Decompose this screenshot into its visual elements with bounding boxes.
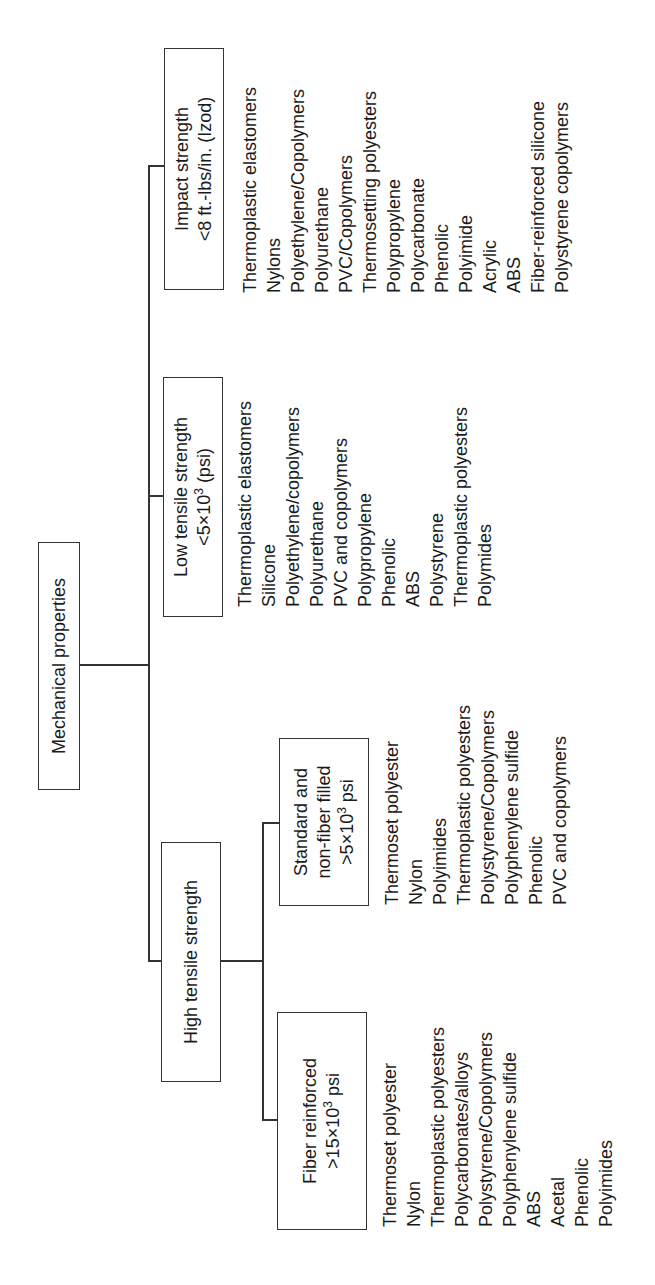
material-item: Nylon — [404, 605, 428, 905]
material-item: Polyimides — [594, 927, 618, 1227]
connector-fiber — [262, 1119, 278, 1121]
material-item: Thermoplastic polyesters — [449, 307, 473, 607]
material-item: Polyphenylene sulfide — [500, 605, 524, 905]
material-item: Acrylic — [478, 0, 502, 293]
mechanical-properties-label: Mechanical properties — [48, 578, 71, 754]
standard-criteria: >5×103 psi — [335, 779, 358, 865]
material-item: Phenolic — [570, 927, 594, 1227]
low-tensile-strength-box: Low tensile strength <5×103 (psi) — [163, 377, 223, 617]
material-item: Phenolic — [377, 307, 401, 607]
fiber-criteria: >15×103 psi — [322, 1073, 345, 1169]
material-item: Thermoplastic polyesters — [426, 927, 450, 1227]
standard-materials-list: Thermoset polyesterNylonPolyimidesThermo… — [380, 605, 572, 905]
impact-materials-list: Thermoplastic elastomersNylonsPolyethyle… — [238, 0, 574, 293]
connector-impact — [148, 165, 165, 167]
material-item: Fiber-reinforced silicone — [526, 0, 550, 293]
material-item: Polyimides — [428, 605, 452, 905]
material-item: Polycarbonate — [406, 0, 430, 293]
connector-high-tensile — [148, 960, 162, 962]
material-item: ABS — [502, 0, 526, 293]
material-item: ABS — [401, 307, 425, 607]
material-item: Polyphenylene sulfide — [498, 927, 522, 1227]
material-item: Thermoplastic polyesters — [452, 605, 476, 905]
material-item: Polyethylene/Copolymers — [286, 0, 310, 293]
material-item: Thermoset polyester — [380, 605, 404, 905]
main-spine — [148, 165, 150, 961]
material-item: Polypropylene — [382, 0, 406, 293]
sub-spine — [262, 822, 264, 1120]
material-item: Polystyrene copolymers — [550, 0, 574, 293]
material-item: PVC and copolymers — [548, 605, 572, 905]
low-tensile-materials-list: Thermoplastic elastomersSiliconePolyethy… — [233, 307, 497, 607]
material-item: Thermoplastic elastomers — [233, 307, 257, 607]
material-item: Polyimide — [454, 0, 478, 293]
material-item: Polymides — [473, 307, 497, 607]
material-item: Thermosetting polyesters — [358, 0, 382, 293]
material-item: Polycarbonates/alloys — [450, 927, 474, 1227]
standard-non-fiber-filled-box: Standard and non-fiber filled >5×103 psi — [279, 738, 369, 906]
material-item: PVC and copolymers — [329, 307, 353, 607]
material-item: Phenolic — [430, 0, 454, 293]
material-item: Acetal — [546, 927, 570, 1227]
material-item: Nylon — [402, 927, 426, 1227]
material-item: Polyurethane — [310, 0, 334, 293]
material-item: Nylons — [262, 0, 286, 293]
material-item: Thermoplastic elastomers — [238, 0, 262, 293]
standard-title: Standard and — [289, 768, 312, 876]
low-tensile-title: Low tensile strength — [170, 417, 193, 577]
material-item: Polyurethane — [305, 307, 329, 607]
material-item: Phenolic — [524, 605, 548, 905]
impact-strength-box: Impact strength <8 ft.-lbs/in. (Izod) — [164, 48, 224, 290]
standard-subtitle: non-fiber filled — [312, 765, 335, 878]
material-item: Silicone — [257, 307, 281, 607]
fiber-materials-list: Thermoset polyesterNylonThermoplastic po… — [378, 927, 618, 1227]
impact-strength-criteria: <8 ft.-lbs/in. (Izod) — [194, 97, 217, 242]
low-tensile-criteria: <5×103 (psi) — [193, 448, 216, 546]
material-item: Polypropylene — [353, 307, 377, 607]
mechanical-properties-box: Mechanical properties — [38, 542, 80, 790]
material-item: PVC/Copolymers — [334, 0, 358, 293]
material-item: ABS — [522, 927, 546, 1227]
impact-strength-title: Impact strength — [171, 107, 194, 231]
material-item: Polystyrene/Copolymers — [474, 927, 498, 1227]
connector-low-tensile — [148, 495, 164, 497]
material-item: Thermoset polyester — [378, 927, 402, 1227]
fiber-reinforced-box: Fiber reinforced >15×103 psi — [277, 1012, 367, 1230]
material-item: Polystyrene/Copolymers — [476, 605, 500, 905]
material-item: Polystyrene — [425, 307, 449, 607]
connector-root-spine — [80, 664, 149, 666]
connector-standard — [262, 822, 280, 824]
fiber-title: Fiber reinforced — [299, 1057, 322, 1183]
connector-high-subspine — [220, 960, 264, 962]
high-tensile-label: High tensile strength — [179, 880, 202, 1044]
material-item: Polyethylene/copolymers — [281, 307, 305, 607]
high-tensile-strength-box: High tensile strength — [161, 842, 221, 1082]
